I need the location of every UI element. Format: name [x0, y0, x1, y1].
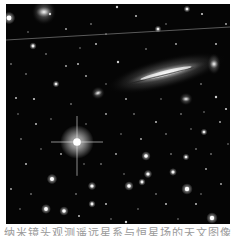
star [133, 113, 135, 115]
star [172, 171, 175, 174]
star [125, 221, 127, 223]
star [116, 6, 118, 8]
star [85, 123, 86, 124]
star [83, 163, 84, 164]
star [95, 43, 97, 45]
star [15, 97, 17, 99]
star [170, 153, 172, 155]
star [165, 203, 167, 205]
star [220, 183, 222, 185]
star [62, 209, 66, 213]
star [120, 133, 121, 134]
star [50, 118, 51, 119]
star [35, 123, 37, 125]
star [32, 45, 35, 48]
star [55, 83, 58, 86]
star [219, 121, 221, 123]
star [20, 138, 22, 140]
star [144, 154, 148, 158]
star [185, 156, 188, 159]
star [195, 203, 197, 205]
star [135, 15, 137, 17]
star [75, 193, 77, 195]
star [105, 203, 107, 205]
star [70, 103, 72, 105]
star [215, 43, 217, 45]
star [49, 13, 51, 15]
star [145, 48, 147, 50]
star [78, 215, 80, 217]
star [65, 28, 67, 30]
star [225, 23, 227, 25]
star [19, 208, 20, 209]
star [160, 98, 161, 99]
star [27, 31, 28, 32]
star [40, 148, 41, 149]
star [165, 23, 166, 24]
star [200, 193, 201, 194]
star [185, 187, 189, 191]
image-caption: 纳米镜头观测遥远星系与恒星场的天文图像 [4, 227, 232, 236]
star [140, 138, 142, 140]
star [17, 113, 18, 114]
star [190, 128, 191, 129]
star [45, 53, 47, 55]
small-galaxy-right [207, 53, 221, 75]
star [195, 148, 197, 150]
star [137, 208, 138, 209]
star [210, 216, 214, 220]
star [157, 28, 160, 31]
star [110, 218, 111, 219]
star [105, 83, 106, 84]
star [50, 177, 54, 181]
star [215, 96, 217, 98]
star [200, 83, 202, 85]
star [165, 133, 167, 135]
star [186, 8, 189, 11]
star [7, 16, 12, 21]
astronomy-image [6, 4, 230, 224]
star [203, 111, 204, 112]
star [155, 193, 157, 195]
star [127, 184, 131, 188]
star [227, 143, 228, 144]
star [155, 121, 157, 123]
star [30, 193, 32, 195]
star [177, 218, 178, 219]
star [33, 98, 35, 100]
star-field [6, 4, 230, 224]
star [205, 168, 207, 170]
star [90, 23, 92, 25]
star [210, 153, 212, 155]
star [25, 163, 27, 165]
star [141, 181, 144, 184]
star [175, 43, 177, 45]
star [60, 153, 62, 155]
star [79, 47, 80, 48]
star [105, 33, 106, 34]
star [105, 113, 107, 115]
star [91, 203, 94, 206]
star [65, 65, 67, 67]
star [117, 61, 119, 63]
star [10, 63, 12, 65]
star [100, 163, 102, 165]
star [146, 172, 149, 175]
star [180, 113, 182, 115]
faint-galaxy-below [179, 92, 193, 105]
star [125, 98, 127, 100]
star [225, 108, 227, 110]
star [10, 188, 12, 190]
star [123, 173, 124, 174]
star [90, 184, 93, 187]
star [25, 73, 27, 75]
star [44, 207, 48, 211]
star [201, 13, 203, 15]
star [85, 75, 87, 77]
star [77, 63, 79, 65]
star [115, 153, 117, 155]
star [203, 131, 206, 134]
